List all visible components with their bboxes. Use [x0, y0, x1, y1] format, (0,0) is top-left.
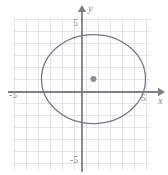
y-axis-arrowhead [78, 5, 86, 12]
x-axis-tick-label-negative-5: -5 [9, 91, 17, 101]
x-axis-tick-label-5: 5 [141, 94, 146, 104]
coordinate-axes [8, 5, 165, 172]
y-axis-tick-label-5: 5 [73, 19, 78, 29]
ellipse-graph-figure: 5 -5 -5 5 y x [0, 0, 168, 175]
coordinate-plane-svg [0, 0, 168, 175]
ellipse-center-point [91, 76, 97, 82]
y-axis-name-label: y [88, 4, 93, 15]
x-axis-name-label: x [158, 96, 163, 107]
y-axis-tick-label-negative-5: -5 [70, 156, 78, 166]
